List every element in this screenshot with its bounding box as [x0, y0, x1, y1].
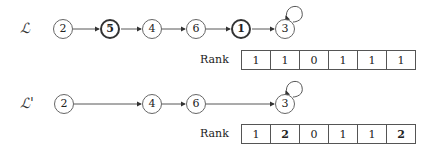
rank-cell: 1 — [271, 51, 300, 70]
node-4: 4 — [142, 19, 162, 39]
rank-label-original: Rank — [200, 53, 229, 66]
node-3: 3 — [275, 19, 295, 39]
node-4: 4 — [142, 94, 162, 114]
rank-cell: 1 — [387, 51, 416, 70]
node-3: 3 — [275, 94, 295, 114]
node-2: 2 — [53, 19, 73, 39]
rank-cell: 1 — [242, 51, 271, 70]
rank-cell: 1 — [358, 51, 387, 70]
rank-cell: 0 — [300, 125, 329, 144]
rank-cell: 1 — [358, 125, 387, 144]
node-6: 6 — [186, 19, 206, 39]
rank-cell: 1 — [329, 125, 358, 144]
list-label-original: ℒ — [20, 20, 30, 36]
node-2: 2 — [54, 94, 74, 114]
list-label-reduced: ℒ' — [20, 95, 34, 111]
rank-table-reduced: 1 2 0 1 1 2 — [241, 124, 416, 144]
rank-table-original: 1 1 0 1 1 1 — [241, 50, 416, 70]
rank-cell: 1 — [329, 51, 358, 70]
rank-label-reduced: Rank — [200, 127, 229, 140]
rank-cell: 2 — [387, 125, 416, 144]
rank-cell: 1 — [242, 125, 271, 144]
rank-cell: 2 — [271, 125, 300, 144]
rank-cell: 0 — [300, 51, 329, 70]
node-5: 5 — [100, 19, 120, 39]
node-1: 1 — [231, 19, 251, 39]
node-6: 6 — [186, 94, 206, 114]
